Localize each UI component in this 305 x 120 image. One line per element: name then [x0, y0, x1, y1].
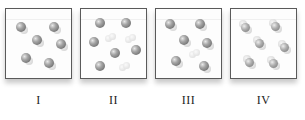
atom-icon — [271, 22, 280, 31]
atom-icon — [193, 49, 200, 56]
atom-icon — [49, 22, 59, 32]
atom-icon — [95, 61, 105, 71]
panel-4 — [230, 8, 297, 79]
panel-1 — [5, 8, 72, 79]
atom-icon — [44, 58, 54, 68]
atom-icon — [56, 39, 66, 49]
atom-icon — [255, 39, 264, 48]
atom-icon — [202, 38, 212, 48]
atom-icon — [131, 45, 141, 55]
panel-label: II — [80, 93, 147, 108]
container-box — [80, 8, 147, 79]
container-box — [230, 8, 297, 79]
atom-icon — [129, 34, 136, 41]
atom-icon — [195, 19, 205, 29]
panel-label: I — [5, 93, 72, 108]
container-box — [5, 8, 72, 79]
atom-icon — [179, 35, 189, 45]
atom-icon — [109, 33, 116, 40]
atom-icon — [171, 56, 181, 66]
atom-icon — [21, 53, 31, 63]
panel-label: IV — [230, 93, 297, 108]
atom-icon — [245, 58, 254, 67]
atom-icon — [110, 48, 120, 58]
atom-icon — [241, 23, 250, 32]
panel-label: III — [155, 93, 222, 108]
container-box — [155, 8, 222, 79]
atom-icon — [16, 22, 26, 32]
atom-icon — [89, 37, 99, 47]
atom-icon — [123, 62, 130, 69]
atom-icon — [121, 18, 131, 28]
atom-icon — [32, 35, 42, 45]
panel-2 — [80, 8, 147, 79]
atom-icon — [280, 43, 289, 52]
atom-icon — [95, 18, 105, 28]
atom-icon — [165, 19, 175, 29]
atom-icon — [269, 59, 278, 68]
panel-3 — [155, 8, 222, 79]
atom-icon — [199, 61, 209, 71]
